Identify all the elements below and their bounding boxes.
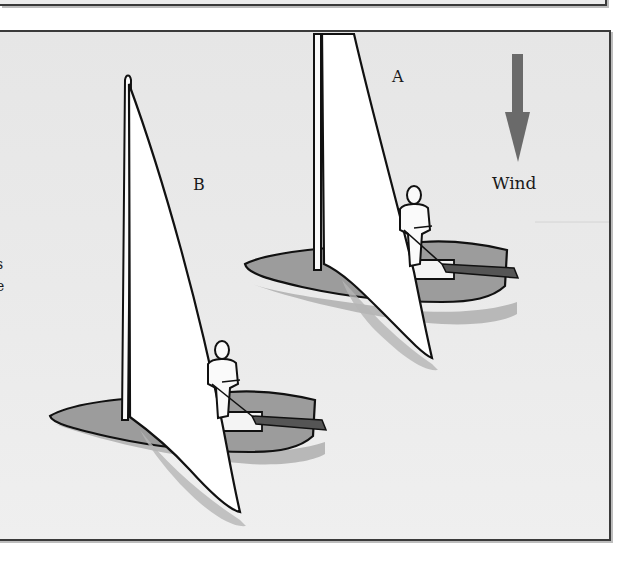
cut-off-text-1: s bbox=[0, 256, 3, 272]
sailboats-illustration bbox=[0, 32, 609, 539]
arrow-down-icon bbox=[505, 54, 530, 162]
boat-a-label: A bbox=[392, 69, 404, 85]
boat-a bbox=[245, 34, 518, 370]
boat-b-label: B bbox=[193, 177, 205, 193]
illustration-panel: A B Wind s e bbox=[0, 30, 611, 541]
boat-b bbox=[50, 76, 326, 527]
cut-off-text-2: e bbox=[0, 278, 4, 294]
wind-label: Wind bbox=[492, 175, 536, 192]
previous-panel-edge bbox=[0, 0, 607, 6]
